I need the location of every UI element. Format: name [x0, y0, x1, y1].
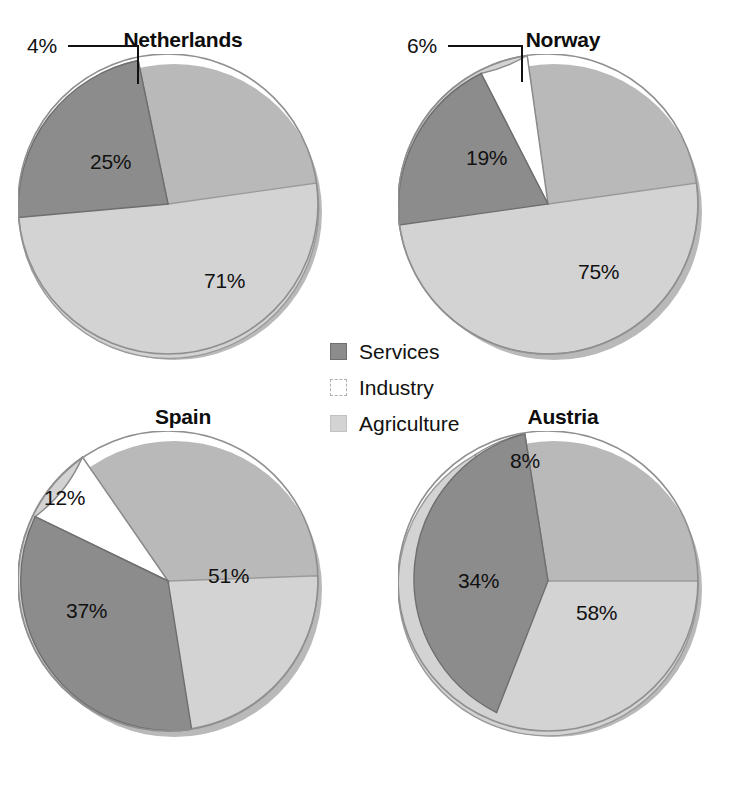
pie-slices-austria — [398, 431, 708, 741]
label-agriculture-norway: 75% — [578, 260, 619, 284]
legend-item-industry[interactable]: Industry — [330, 369, 459, 405]
pie-chart-norway: Norway 6% 19% 75% — [398, 28, 728, 358]
legend-item-services[interactable]: Services — [330, 333, 459, 369]
legend-label-industry: Industry — [359, 377, 434, 398]
industry-leader-line — [446, 36, 546, 88]
pie-slices-spain — [18, 431, 328, 741]
pie-graphic-spain: 12% 37% 51% — [18, 431, 338, 741]
chart-title-spain: Spain — [18, 405, 348, 429]
label-agriculture-austria: 58% — [576, 601, 617, 625]
label-industry-spain: 12% — [44, 486, 85, 510]
label-industry-netherlands: 4% — [27, 34, 57, 58]
pie-graphic-netherlands: 4% 25% 71% — [18, 54, 338, 354]
legend-label-services: Services — [359, 341, 440, 362]
pie-chart-netherlands: Netherlands 4% 25% 71% — [18, 28, 348, 358]
label-services-netherlands: 25% — [90, 150, 131, 174]
pie-slices-netherlands — [18, 54, 328, 364]
pie-slices-norway — [398, 54, 708, 364]
label-agriculture-netherlands: 71% — [204, 269, 245, 293]
label-services-austria: 34% — [458, 569, 499, 593]
square-swatch-icon — [330, 343, 347, 360]
label-services-spain: 37% — [66, 599, 107, 623]
pie-chart-spain: Spain 12% 37% 51% — [18, 405, 348, 745]
chart-title-austria: Austria — [398, 405, 728, 429]
industry-leader-line — [66, 36, 166, 88]
square-swatch-icon — [330, 379, 347, 396]
pie-graphic-norway: 6% 19% 75% — [398, 54, 718, 354]
pie-chart-austria: Austria 8% 34% 58% — [398, 405, 728, 745]
pie-graphic-austria: 8% 34% 58% — [398, 431, 718, 741]
label-industry-norway: 6% — [407, 34, 437, 58]
label-agriculture-spain: 51% — [208, 564, 249, 588]
figure-canvas: Netherlands 4% 25% 71% Norway — [0, 0, 750, 785]
label-industry-austria: 8% — [510, 449, 540, 473]
label-services-norway: 19% — [466, 146, 507, 170]
